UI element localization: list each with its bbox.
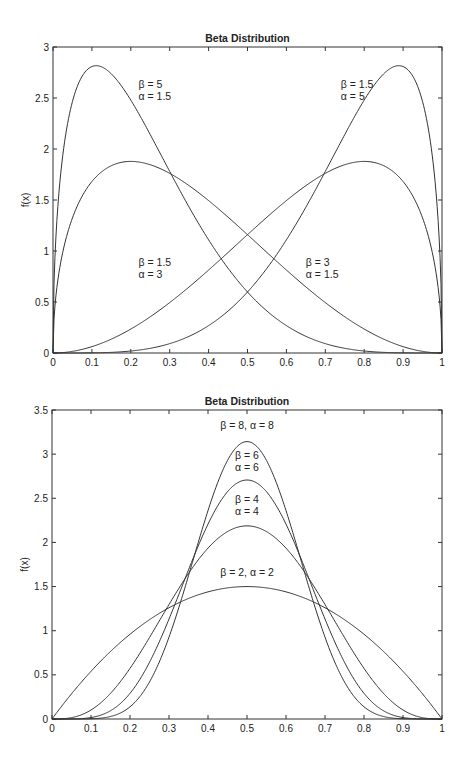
x-tick-label: 0.1: [85, 357, 99, 368]
chart-bottom-beta-symmetric: Beta Distributionf(x)00.10.20.30.40.50.6…: [19, 395, 445, 734]
curve-annotation: β = 4: [235, 493, 259, 505]
series-curve: [53, 161, 442, 353]
y-axis-label: f(x): [20, 193, 31, 207]
x-tick-label: 0.2: [124, 357, 138, 368]
y-tick-label: 2.5: [34, 493, 48, 504]
series-curve: [52, 442, 442, 719]
y-tick-label: 1.5: [35, 195, 49, 206]
x-tick-label: 0.9: [396, 723, 410, 734]
y-tick-label: 0: [43, 348, 49, 359]
y-tick-label: 1: [43, 246, 49, 257]
x-tick-label: 0.8: [357, 357, 371, 368]
y-tick-label: 2: [42, 537, 48, 548]
x-tick-label: 0.5: [241, 357, 255, 368]
curve-annotation: α = 4: [235, 505, 259, 517]
curve-annotation: α = 1.5: [306, 268, 339, 280]
series-curve: [52, 526, 442, 719]
x-tick-label: 0.4: [201, 723, 215, 734]
x-tick-label: 0.3: [163, 357, 177, 368]
x-tick-label: 0.2: [123, 723, 137, 734]
curve-annotation: β = 1.5: [139, 256, 172, 268]
series-curve: [53, 161, 442, 353]
x-tick-label: 1: [439, 357, 445, 368]
chart-title: Beta Distribution: [205, 395, 290, 407]
y-tick-label: 0.5: [34, 669, 48, 680]
y-tick-label: 0: [42, 714, 48, 725]
x-tick-label: 0.6: [279, 723, 293, 734]
x-tick-label: 0.5: [240, 723, 254, 734]
y-tick-label: 2.5: [35, 93, 49, 104]
x-tick-label: 0.3: [162, 723, 176, 734]
beta-distribution-figure: Beta Distributionf(x)00.10.20.30.40.50.6…: [0, 0, 468, 768]
x-tick-label: 0: [49, 723, 55, 734]
curve-annotation: α = 5: [341, 90, 365, 102]
y-tick-label: 3: [42, 449, 48, 460]
x-tick-label: 0.8: [357, 723, 371, 734]
curve-annotation: β = 6: [235, 449, 259, 461]
curve-annotation: α = 1.5: [139, 90, 172, 102]
plot-area-frame: [53, 47, 442, 353]
curve-annotation: α = 3: [139, 268, 163, 280]
x-tick-label: 0.7: [318, 357, 332, 368]
chart-title: Beta Distribution: [205, 32, 290, 44]
y-tick-label: 0.5: [35, 297, 49, 308]
x-tick-label: 0.1: [84, 723, 98, 734]
curve-annotation: β = 2, α = 2: [220, 566, 274, 578]
curve-annotation: β = 8, α = 8: [220, 419, 274, 431]
y-tick-label: 3.5: [34, 405, 48, 416]
x-tick-label: 0.6: [279, 357, 293, 368]
y-tick-label: 2: [43, 144, 49, 155]
series-curve: [53, 66, 442, 353]
x-tick-label: 0.9: [396, 357, 410, 368]
curve-annotation: β = 1.5: [341, 78, 374, 90]
x-tick-label: 0.4: [202, 357, 216, 368]
y-axis-label: f(x): [19, 557, 30, 571]
y-tick-label: 1.5: [34, 581, 48, 592]
series-curve: [52, 587, 442, 719]
series-curve: [53, 66, 442, 353]
curve-annotation: α = 6: [235, 461, 259, 473]
curve-annotation: β = 3: [306, 256, 330, 268]
curve-annotation: β = 5: [139, 78, 163, 90]
x-tick-label: 0.7: [318, 723, 332, 734]
x-tick-label: 0: [50, 357, 56, 368]
y-tick-label: 3: [43, 42, 49, 53]
y-tick-label: 1: [42, 625, 48, 636]
chart-top-beta-skewed: Beta Distributionf(x)00.10.20.30.40.50.6…: [20, 32, 445, 368]
x-tick-label: 1: [439, 723, 445, 734]
